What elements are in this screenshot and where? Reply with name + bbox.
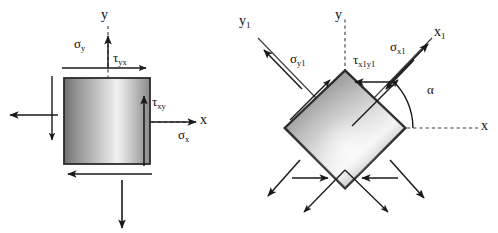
right-x-axis-label: x — [481, 117, 488, 133]
x1-axis-label: x1 — [434, 23, 446, 39]
sigma-y-label: σy — [74, 35, 85, 51]
tau-lower-right-edge-arrow — [345, 170, 388, 212]
left-x-axis-label: x — [200, 111, 207, 127]
y1-axis-label: y1 — [239, 12, 251, 28]
sigma-y1-label: σy1 — [290, 50, 306, 66]
stress-transformation-figure: y x σy τyx τxy σx y1 y x1 x σy1 τx1y1 σx… — [0, 0, 498, 233]
left-diagram-group — [10, 26, 196, 228]
sigma-x-label: σx — [178, 126, 189, 142]
tau-x1y1-label: τx1y1 — [353, 51, 375, 67]
left-y-axis-label: y — [101, 6, 108, 22]
tau-xy-label: τxy — [152, 93, 166, 109]
sigma-x1-label: σx1 — [390, 38, 406, 54]
sigma-y1-lower-right-arrow — [390, 160, 424, 198]
tau-lower-left-edge-arrow — [304, 170, 345, 212]
sigma-x1-inward-arrow — [386, 60, 414, 89]
tau-yx-label: τyx — [113, 49, 127, 65]
right-diagram-group — [258, 18, 478, 212]
alpha-angle-label: α — [427, 81, 434, 97]
right-y-axis-label: y — [335, 6, 342, 22]
stress-element-square — [64, 78, 150, 164]
